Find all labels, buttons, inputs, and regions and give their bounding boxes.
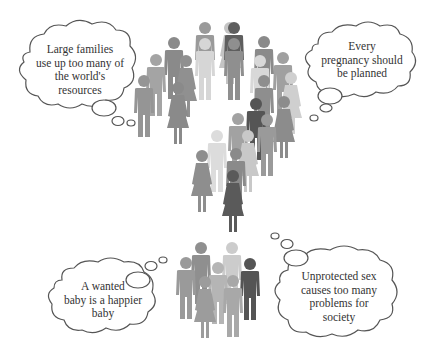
crowd-bottom-dot (176, 242, 260, 338)
crowd-top-arc (134, 22, 302, 232)
thought-text-top-left: Large families use up too many of the wo… (26, 43, 134, 97)
thought-text-bottom-left: A wanted baby is a happier baby (50, 280, 156, 321)
question-mark-crowd-diagram: Large families use up too many of the wo… (0, 0, 429, 363)
thought-text-bottom-right: Unprotected sex causes too many problems… (280, 270, 398, 324)
thought-text-top-right: Every pregnancy should be planned (308, 40, 416, 81)
